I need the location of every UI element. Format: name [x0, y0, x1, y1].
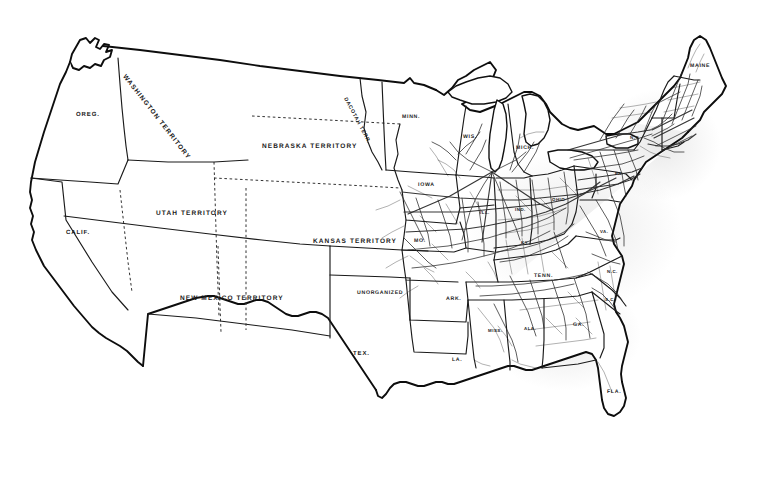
historical-map: WASHINGTON TERRITORYNEBRASKA TERRITORYDA… — [0, 0, 765, 484]
map-linework — [0, 0, 765, 484]
